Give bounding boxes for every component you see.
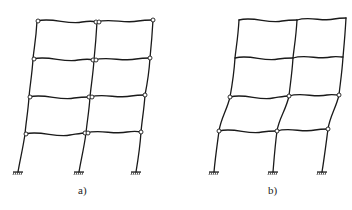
fixed-support-icon — [209, 172, 219, 175]
plastic-hinge-icon — [97, 20, 101, 24]
frame-a-supports — [13, 172, 141, 175]
plastic-hinge-icon — [326, 127, 330, 131]
panel-label-b: b) — [268, 184, 277, 196]
frame-b-beam-level-2-left — [230, 96, 289, 99]
plastic-hinge-icon — [94, 58, 98, 62]
frame-b-beam-level-1-left — [219, 130, 277, 133]
fixed-support-icon — [74, 172, 84, 175]
frame-b — [209, 18, 346, 175]
plastic-hinge-icon — [36, 19, 40, 23]
frame-b-beam-level-4-left — [239, 19, 297, 22]
frame-b-beam-level-2-right — [289, 95, 339, 96]
panel-label-a: a) — [78, 184, 87, 196]
plastic-hinge-icon — [24, 132, 28, 136]
frame-b-hinges — [217, 93, 341, 133]
frame-b-beam-level-1-right — [277, 129, 328, 131]
fixed-support-icon — [131, 172, 141, 175]
frame-a-beam-level-2-right — [90, 95, 145, 97]
plastic-hinge-icon — [287, 94, 291, 98]
plastic-hinge-icon — [90, 95, 94, 99]
frame-a-beam-level-2-left — [29, 96, 90, 99]
plastic-hinge-icon — [139, 130, 143, 134]
plastic-hinge-icon — [148, 56, 152, 60]
plastic-hinge-icon — [86, 131, 90, 135]
frame-a-beam-level-4-left — [37, 20, 97, 23]
frame-b-beam-level-4-right — [297, 18, 346, 20]
plastic-hinge-icon — [228, 95, 232, 99]
frame-b-beam-level-3-right — [293, 57, 343, 58]
frame-a-beam-level-3-right — [94, 58, 150, 60]
plastic-hinge-icon — [32, 57, 36, 61]
frame-a-beam-level-3-left — [33, 58, 94, 61]
frame-diagrams — [0, 0, 352, 210]
frame-a-beam-level-1-left — [25, 133, 86, 136]
frame-a — [13, 18, 155, 175]
plastic-hinge-icon — [217, 129, 221, 133]
frame-a-beam-level-4-right — [97, 20, 153, 22]
frame-a-beam-level-1-right — [86, 131, 141, 133]
fixed-support-icon — [268, 172, 278, 175]
plastic-hinge-icon — [151, 18, 155, 22]
fixed-support-icon — [13, 172, 23, 175]
frame-b-beam-level-3-left — [235, 57, 293, 60]
plastic-hinge-icon — [337, 93, 341, 97]
plastic-hinge-icon — [143, 93, 147, 97]
fixed-support-icon — [317, 172, 327, 175]
frame-b-supports — [209, 172, 327, 175]
plastic-hinge-icon — [275, 129, 279, 133]
frame-a-hinges — [24, 18, 155, 136]
plastic-hinge-icon — [28, 95, 32, 99]
